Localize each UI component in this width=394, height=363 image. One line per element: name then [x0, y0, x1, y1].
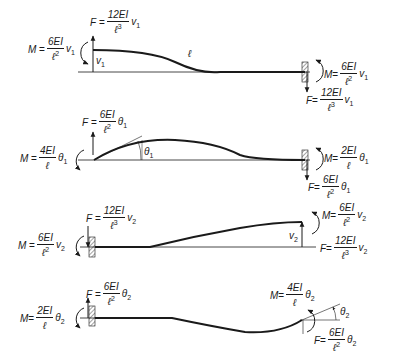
case1-deflected-beam: [93, 50, 305, 72]
case4-deflected-beam: [95, 318, 302, 332]
case1-right-force-label: F= 12EI ℓ3 v1: [306, 88, 353, 113]
case2-group: [76, 132, 323, 180]
case1-span-label: ℓ: [188, 48, 191, 59]
case3-left-moment-label: M = 6EI ℓ2 v2: [18, 233, 65, 258]
case3-displacement-label: v2: [289, 230, 298, 243]
case4-left-fixed-support: [89, 306, 95, 326]
case3-right-moment-label: M= 6EI ℓ2 v2: [322, 203, 366, 228]
case1-right-moment-label: M= 6EI ℓ2 v1: [324, 62, 368, 87]
case1-right-moment-arrow: [316, 60, 323, 82]
case4-theta-arc: [333, 307, 336, 320]
case1-left-moment-arrow: [81, 42, 88, 64]
case2-deflected-beam: [94, 140, 305, 160]
case4-left-force-label: F = 6EI ℓ2 θ2: [86, 282, 131, 307]
case2-tangent-line: [94, 136, 142, 160]
case3-right-force-label: F= 12EI ℓ3 v2: [320, 236, 367, 261]
case2-left-moment-label: M = 4EI ℓ θ1: [20, 146, 67, 171]
case1-left-moment-label: M = 6EI ℓ2 v1: [28, 37, 75, 62]
case2-right-force-label: F= 6EI ℓ2 θ1: [308, 175, 350, 200]
fraction: 12EI ℓ3: [107, 10, 130, 35]
case1-left-force-label: F = 12EI ℓ3 v1: [90, 10, 140, 35]
case3-right-moment-arrow: [312, 212, 319, 234]
case2-theta-label: θ1: [144, 146, 153, 159]
case2-right-moment-label: M= 2EI ℓ θ1: [324, 146, 369, 171]
case3-left-fixed-support: [89, 237, 95, 257]
case2-left-force-label: F = 6EI ℓ2 θ1: [82, 110, 127, 135]
case4-left-moment-label: M= 2EI ℓ θ2: [20, 306, 65, 331]
case1-displacement-label: v1: [96, 55, 105, 68]
case1-group: [78, 36, 323, 92]
case4-theta-label: θ2: [340, 306, 349, 319]
case2-theta-arc: [138, 141, 141, 160]
case3-left-moment-arrow: [76, 236, 84, 256]
case4-right-force-label: F= 6EI ℓ2 θ2: [314, 328, 356, 353]
case2-right-moment-arrow: [316, 148, 323, 170]
case3-left-force-label: F = 12EI ℓ3 v2: [86, 206, 136, 231]
case4-right-moment-label: M= 4EI ℓ θ2: [270, 283, 315, 308]
